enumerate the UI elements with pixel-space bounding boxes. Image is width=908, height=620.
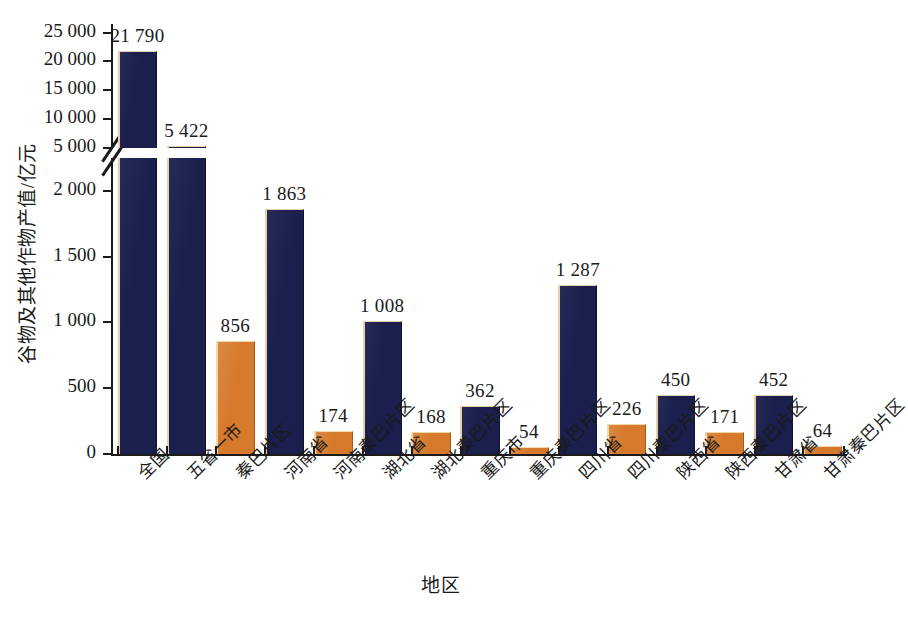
y-axis-spine-lower <box>111 158 113 456</box>
y-tick-label-upper: 10 000 <box>0 106 96 128</box>
bar-value-label: 1 863 <box>230 183 338 205</box>
y-tick-lower <box>103 453 113 455</box>
y-tick-upper <box>103 89 113 91</box>
y-tick-label-lower: 2 000 <box>0 178 96 200</box>
y-tick-lower <box>103 387 113 389</box>
y-tick-label-lower: 1 000 <box>0 309 96 331</box>
y-tick-label-upper: 25 000 <box>0 20 96 42</box>
y-tick-lower <box>103 321 113 323</box>
y-tick-label-lower: 500 <box>0 375 96 397</box>
x-axis-title: 地区 <box>0 570 881 597</box>
bar-value-label: 452 <box>720 369 828 391</box>
bar-lower-segment <box>167 158 206 454</box>
y-tick-label-upper: 15 000 <box>0 77 96 99</box>
bar-value-label: 1 287 <box>524 259 632 281</box>
bar-value-label: 450 <box>622 369 730 391</box>
bar-upper-segment <box>167 146 206 148</box>
y-tick-upper <box>103 60 113 62</box>
y-tick-lower <box>103 256 113 258</box>
y-tick-label-upper: 5 000 <box>0 135 96 157</box>
bar-value-label: 1 008 <box>328 295 436 317</box>
y-tick-upper <box>103 118 113 120</box>
y-tick-lower <box>103 190 113 192</box>
bar-value-label: 362 <box>426 380 534 402</box>
bar-value-label: 5 422 <box>133 120 241 142</box>
y-tick-label-lower: 1 500 <box>0 244 96 266</box>
y-tick-label-upper: 20 000 <box>0 48 96 70</box>
y-tick-label-lower: 0 <box>0 441 96 463</box>
bar-value-label: 21 790 <box>84 25 192 47</box>
bar-lower-segment <box>118 158 157 454</box>
x-tick <box>117 446 119 456</box>
y-tick-upper <box>103 147 113 149</box>
